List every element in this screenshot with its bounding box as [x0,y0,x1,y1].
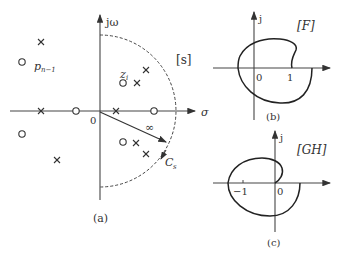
origin-label: 0 [277,186,283,197]
zero-marker [151,108,157,114]
origin-label: 0 [256,72,262,83]
imaginary-axis-label: j [258,13,262,24]
panel-a-caption: (a) [93,212,108,225]
f-plane-panel: j 0 1 [F] (b) [213,12,330,122]
pole-label-subscript: n−1 [41,66,56,74]
origin-label: 0 [90,115,96,126]
zero-marker [19,59,25,65]
nyquist-diagram: jω σ 0 [s] p n−1 z i ∞ C s (a) j 0 1 [F]… [0,0,343,259]
poles [38,39,149,163]
pole-marker [38,39,44,45]
s-plane-panel: jω σ 0 [s] p n−1 z i ∞ C s (a) [10,15,209,225]
zero-marker [120,139,126,145]
pole-marker [143,67,149,73]
infinity-label: ∞ [145,121,154,134]
zero-label: z [119,68,126,81]
plane-label: [GH] [297,143,327,157]
pole-marker [54,157,60,163]
tick-label: −1 [233,186,248,197]
pole-marker [134,80,140,86]
panel-b-caption: (b) [266,111,280,122]
real-axis-label: σ [201,106,209,119]
zero-label-subscript: i [126,74,128,82]
imaginary-axis-label: j [279,132,283,143]
gh-plane-panel: j 0 −1 [GH] (c) [213,131,330,248]
radius-arrow [100,112,166,142]
tick-label: 1 [287,72,293,83]
panel-c-caption: (c) [267,237,281,248]
pole-marker [133,140,139,146]
nyquist-curve [238,39,312,103]
imaginary-axis-label: jω [104,16,118,29]
contour-label-subscript: s [173,163,177,171]
zero-marker [73,108,79,114]
plane-label: [F] [297,19,315,33]
zero-marker [19,131,25,137]
pole-marker [143,151,149,157]
pole-label: p [34,60,41,73]
plane-label: [s] [176,53,192,67]
